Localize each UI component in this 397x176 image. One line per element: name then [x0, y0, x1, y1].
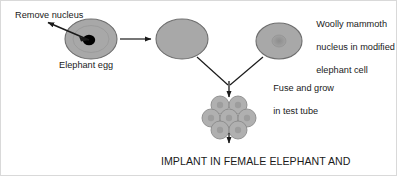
label-implant-line1: IMPLANT IN FEMALE ELEPHANT AND	[161, 155, 351, 167]
label-elephant-egg: Elephant egg	[59, 60, 113, 72]
enucleated-egg-membrane	[156, 19, 208, 59]
label-fuse-and-grow: Fuse and grow in test tube	[263, 71, 334, 129]
label-remove-nucleus: Remove nucleus	[15, 10, 83, 22]
embryo-cell-cluster	[202, 96, 256, 139]
fuse-left-branch-line	[197, 57, 228, 85]
label-mammoth-nucleus-line1: Woolly mammoth	[316, 19, 387, 29]
label-fuse-and-grow-line1: Fuse and grow	[273, 83, 334, 93]
mammoth-nucleus	[272, 35, 286, 47]
cluster-cell	[229, 121, 247, 139]
enucleated-egg-cell	[156, 19, 208, 59]
label-mammoth-nucleus-line2: nucleus in modified	[316, 42, 395, 52]
fuse-right-branch-line	[230, 57, 263, 85]
mammoth-cloning-diagram: Remove nucleus Elephant egg Woolly mammo…	[0, 0, 397, 176]
label-fuse-and-grow-line2: in test tube	[273, 106, 318, 116]
cluster-cell	[211, 121, 229, 139]
elephant-egg-cell	[65, 19, 117, 59]
label-implant-instruction: IMPLANT IN FEMALE ELEPHANT AND AWAIT BIR…	[149, 144, 356, 176]
modified-elephant-cell	[256, 23, 302, 59]
